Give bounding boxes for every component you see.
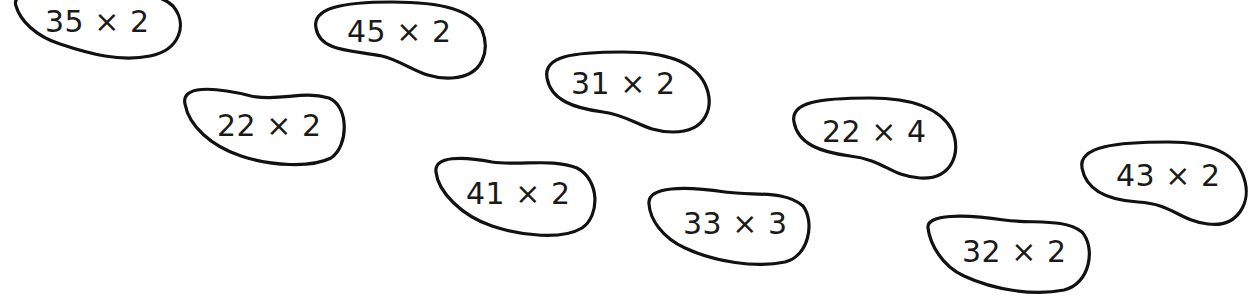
blob-45x2: 45 × 2 — [312, 0, 490, 82]
blob-35x2: 35 × 2 — [10, 0, 180, 67]
blob-32x2: 32 × 2 — [924, 214, 1096, 294]
blob-expression: 35 × 2 — [45, 4, 149, 39]
blob-43x2: 43 × 2 — [1078, 140, 1250, 228]
blob-31x2: 31 × 2 — [543, 50, 715, 134]
blob-expression: 22 × 4 — [822, 114, 926, 149]
blob-expression: 33 × 3 — [683, 206, 787, 241]
blob-expression: 45 × 2 — [347, 14, 451, 49]
blob-expression: 43 × 2 — [1116, 158, 1220, 193]
blob-41x2: 41 × 2 — [432, 156, 600, 238]
blob-22x2: 22 × 2 — [181, 86, 349, 168]
blob-expression: 22 × 2 — [217, 108, 321, 143]
blob-22x4: 22 × 4 — [790, 96, 962, 180]
blob-expression: 41 × 2 — [466, 176, 570, 211]
blob-expression: 32 × 2 — [962, 234, 1066, 269]
blob-33x3: 33 × 3 — [645, 186, 813, 268]
blob-expression: 31 × 2 — [571, 66, 675, 101]
